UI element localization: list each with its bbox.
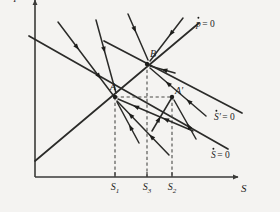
equilibrium-point-label-base-B: B: [150, 48, 156, 59]
equilibrium-point-A: [113, 95, 117, 99]
equilibrium-point-label-Ap: A′: [174, 85, 184, 96]
phase-diagram-canvas: p= 0S′= 0S= 0 S1S3S2 ABA′ pS: [0, 0, 280, 212]
equilibrium-point-Ap: [170, 95, 174, 99]
axis-ticks-group: S1S3S2: [111, 172, 177, 195]
axis-tick-label-S1: S1: [111, 181, 120, 195]
axis-tick-label-S2: S2: [168, 181, 177, 195]
trajectory-line-traj-ul-3: [128, 14, 148, 60]
x-axis-label: S: [241, 182, 247, 194]
trajectory-line-traj-ul-1: [58, 22, 113, 95]
nullcline-label-equals-p-dot-zero: = 0: [202, 19, 215, 29]
axis-tick-label-S3: S3: [143, 181, 152, 195]
nullcline-label-text-p-dot-zero: p= 0: [195, 19, 215, 29]
axis-tick-label-sub-S3: 3: [147, 187, 152, 195]
trajectory-arrowhead-traj-lr-2-0: [163, 118, 170, 123]
equilibrium-point-label-base-A: A: [109, 81, 117, 92]
nullcline-label-text-s-prime-dot-zero: S′= 0: [214, 112, 235, 122]
nullcline-label-base-s-dot-zero: S: [211, 150, 216, 160]
trajectory-arrowhead-traj-ul-3-0: [131, 26, 136, 33]
nullcline-label-p-dot-zero: p= 0: [195, 17, 215, 29]
equilibrium-point-label-B: B: [150, 48, 156, 59]
dashed-guides-group: [115, 64, 172, 177]
nullcline-label-equals-s-dot-zero: = 0: [217, 150, 230, 160]
trajectory-line-traj-lr-4: [117, 102, 139, 143]
nullcline-label-prime-s-prime-dot-zero: ′: [219, 112, 222, 122]
nullcline-label-equals-s-prime-dot-zero: = 0: [222, 112, 235, 122]
nullcline-curves-group: p= 0S′= 0S= 0: [29, 17, 242, 161]
axis-tick-label-sub-S2: 2: [173, 187, 177, 195]
y-axis-label: p: [13, 0, 20, 2]
axis-tick-label-sub-S1: 1: [116, 187, 120, 195]
equilibrium-point-B: [145, 62, 149, 66]
nullcline-label-dot-s-prime-dot-zero: [215, 110, 217, 112]
equilibrium-point-label-prime-Ap: ′: [181, 85, 184, 96]
trajectory-arrowhead-traj-lr-4-0: [129, 125, 134, 132]
nullcline-label-s-prime-dot-zero: S′= 0: [214, 110, 235, 122]
nullcline-label-dot-s-dot-zero: [212, 148, 214, 150]
phase-diagram-figure: p= 0S′= 0S= 0 S1S3S2 ABA′ pS: [0, 0, 280, 212]
equilibrium-point-label-A: A: [109, 81, 117, 92]
trajectory-arrowhead-traj-ap-1-0: [155, 117, 160, 124]
nullcline-label-dot-p-dot-zero: [197, 17, 199, 19]
trajectory-arrowhead-traj-ul-2-0: [101, 46, 105, 53]
nullcline-label-text-s-dot-zero: S= 0: [211, 150, 230, 160]
nullcline-label-s-dot-zero: S= 0: [211, 148, 230, 160]
nullcline-label-base-p-dot-zero: p: [195, 19, 201, 29]
trajectory-arrowhead-traj-lr-2-1: [133, 105, 140, 110]
